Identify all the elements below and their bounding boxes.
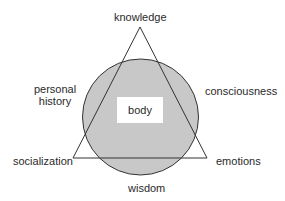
label-socialization: socialization: [13, 155, 73, 167]
label-consciousness: consciousness: [205, 85, 277, 97]
body-knowledge-diagram: body knowledge personal history consciou…: [0, 0, 285, 201]
label-emotions: emotions: [216, 155, 261, 167]
body-label: body: [128, 104, 152, 116]
label-wisdom: wisdom: [128, 182, 165, 194]
label-personal-history: personal history: [33, 83, 77, 107]
body-box: body: [117, 97, 163, 123]
label-personal: personal: [33, 83, 77, 95]
label-knowledge: knowledge: [114, 11, 167, 23]
label-history: history: [33, 95, 77, 107]
